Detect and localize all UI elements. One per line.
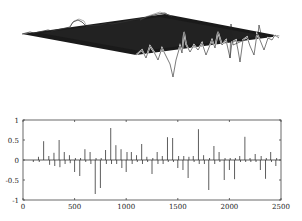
x-axis-labels: 0 500 1000 1500 2000 2500 bbox=[21, 203, 290, 211]
y-tick-label: 0 bbox=[15, 157, 19, 165]
x-tick-label: 0 bbox=[21, 203, 25, 211]
y-tick-label: -0.5 bbox=[6, 177, 20, 185]
stem-plot: 1 0.5 0 -0.5 -1 0 500 1000 1500 2000 250… bbox=[0, 110, 302, 221]
y-tick-label: -1 bbox=[12, 197, 19, 205]
surface-plot bbox=[0, 0, 302, 110]
y-tick-label: 0.5 bbox=[8, 137, 19, 145]
x-tick-label: 1500 bbox=[169, 203, 187, 211]
x-tick-label: 500 bbox=[68, 203, 81, 211]
x-tick-label: 2000 bbox=[220, 203, 238, 211]
y-tick-label: 1 bbox=[15, 117, 19, 125]
x-tick-label: 1000 bbox=[117, 203, 135, 211]
stem-series bbox=[33, 128, 276, 194]
y-axis-labels: 1 0.5 0 -0.5 -1 bbox=[6, 117, 20, 205]
x-tick-label: 2500 bbox=[272, 203, 290, 211]
